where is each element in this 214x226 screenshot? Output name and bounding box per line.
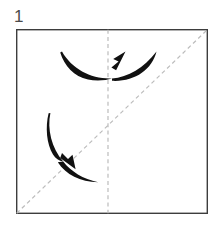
diagram-canvas: 1 bbox=[0, 0, 214, 226]
origami-step-figure: 1 bbox=[0, 0, 214, 226]
step-number-label: 1 bbox=[14, 7, 23, 26]
